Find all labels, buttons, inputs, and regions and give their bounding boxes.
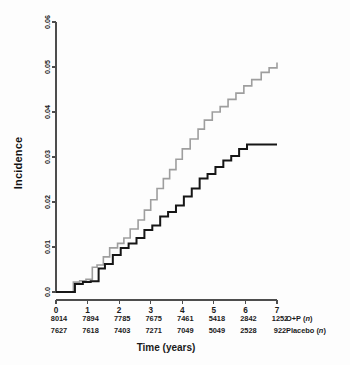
- y-tick-label: 0.0: [43, 287, 52, 297]
- risk-table-value: 922: [274, 326, 286, 335]
- x-axis-title: Time (years): [137, 342, 196, 353]
- y-tick-label: 0.01: [43, 240, 52, 254]
- series-line-placebo: [56, 144, 277, 292]
- y-tick-label: 0.02: [43, 195, 52, 209]
- risk-row-label-placebo: Placebo (n): [286, 326, 326, 335]
- y-tick-label: 0.04: [43, 105, 52, 119]
- risk-table-value: 5418: [209, 314, 225, 323]
- risk-table-value: 7785: [114, 314, 130, 323]
- risk-table-value: 7894: [82, 314, 99, 323]
- y-tick-label: 0.03: [43, 150, 52, 164]
- risk-table-value: 2842: [240, 314, 256, 323]
- risk-table-value: 7627: [51, 326, 67, 335]
- risk-row-label-op: O+P (n): [286, 314, 313, 323]
- incidence-step-chart-figure: 0.00.010.020.030.040.050.06 Incidence 01…: [0, 0, 350, 365]
- y-tick-label: 0.05: [43, 60, 52, 74]
- risk-table-value: 7271: [145, 326, 161, 335]
- y-tick-label: 0.06: [43, 15, 52, 29]
- chart-canvas: 0.00.010.020.030.040.050.06 Incidence 01…: [0, 0, 350, 365]
- risk-table-value: 2528: [240, 326, 256, 335]
- risk-table-value: 7403: [114, 326, 130, 335]
- risk-table-value: 8014: [51, 314, 68, 323]
- risk-table-value: 7049: [177, 326, 193, 335]
- x-tick-marks: [56, 300, 277, 304]
- risk-table-value: 7618: [82, 326, 98, 335]
- series-curves: [56, 63, 277, 293]
- y-tick-labels: 0.00.010.020.030.040.050.06: [43, 15, 52, 297]
- y-tick-marks: [52, 22, 56, 292]
- risk-table-row-placebo: 7627761874037271704950492528922: [51, 326, 286, 335]
- risk-table-value: 7461: [177, 314, 193, 323]
- risk-table-value: 5049: [209, 326, 225, 335]
- risk-table-value: 7675: [145, 314, 161, 323]
- y-axis-title: Incidence: [12, 137, 24, 190]
- series-line-o-p: [56, 63, 277, 293]
- risk-table-row-op: 80147894778576757461541828421252: [51, 314, 288, 323]
